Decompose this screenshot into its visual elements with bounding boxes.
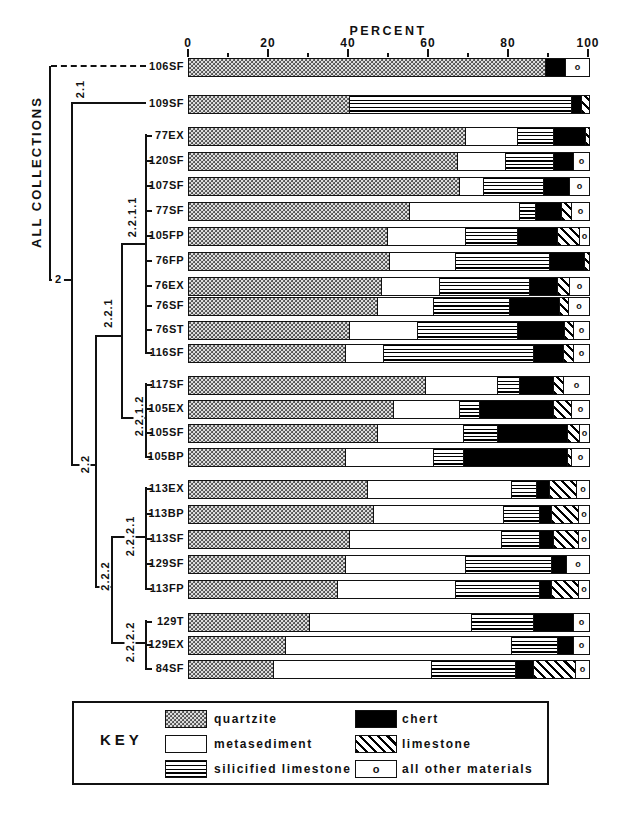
tick-label-20: 20	[260, 36, 275, 50]
bar-segment-silicified-limestone	[431, 661, 515, 678]
bar-113FP: o	[188, 580, 590, 599]
bar-segment-limestone	[551, 506, 578, 523]
row-label-113FP: 113FP	[98, 580, 184, 597]
bar-129SF: o	[188, 555, 590, 574]
bar-105BP: o	[188, 448, 590, 467]
dendro-line-stem-2	[71, 102, 73, 466]
row-label-76FP: 76FP	[98, 252, 184, 269]
key-label-chert: chert	[402, 710, 439, 728]
bar-segment-chert	[535, 203, 561, 220]
bar-segment-chert	[539, 531, 553, 548]
bar-segment-quartzite	[189, 401, 393, 418]
bar-segment-other: o	[573, 637, 589, 654]
bar-segment-quartzite	[189, 228, 387, 245]
tick-label-100: 100	[576, 36, 599, 50]
major-tick-0	[187, 49, 189, 57]
row-label-105FP: 105FP	[98, 227, 184, 244]
bar-segment-quartzite	[189, 581, 337, 598]
row-label-113BP: 113BP	[98, 505, 184, 522]
bar-segment-other: o	[578, 581, 589, 598]
bar-segment-chert	[497, 425, 567, 442]
minor-tick-70	[467, 53, 469, 57]
bar-segment-chert	[571, 96, 581, 113]
row-label-76EX: 76EX	[98, 277, 184, 294]
bar-segment-other: o	[571, 449, 589, 466]
row-label-107SF: 107SF	[98, 177, 184, 194]
bar-segment-chert	[519, 377, 553, 394]
bar-segment-silicified-limestone	[465, 228, 517, 245]
bar-76EX: o	[188, 277, 590, 296]
bar-segment-metasediment	[377, 425, 463, 442]
bar-segment-metasediment	[393, 401, 459, 418]
bar-segment-other: o	[573, 614, 589, 631]
cluster-label-root: ALL COLLECTIONS	[30, 94, 43, 250]
bar-segment-chert	[529, 278, 557, 295]
bar-84SF: o	[188, 660, 590, 679]
bar-segment-metasediment	[345, 449, 433, 466]
bar-105FP: o	[188, 227, 590, 246]
bar-116SF: o	[188, 344, 590, 363]
bar-segment-silicified-limestone	[517, 128, 553, 145]
bar-129EX: o	[188, 636, 590, 655]
bar-segment-metasediment	[285, 637, 511, 654]
row-label-105SF: 105SF	[98, 424, 184, 441]
key-label-metasediment: metasediment	[214, 735, 313, 753]
row-label-106SF: 106SF	[98, 58, 184, 75]
key-label-limestone: limestone	[402, 735, 472, 753]
bar-segment-other: o	[566, 556, 589, 573]
bar-segment-limestone	[553, 377, 563, 394]
bar-106SF: o	[188, 58, 590, 77]
dendro-line-bracket-2-2-1-2	[145, 383, 147, 458]
bar-segment-silicified-limestone	[511, 637, 557, 654]
bar-segment-silicified-limestone	[455, 253, 549, 270]
bar-segment-chert	[517, 322, 564, 339]
bar-segment-limestone	[559, 298, 568, 315]
bar-segment-silicified-limestone	[519, 203, 535, 220]
bar-segment-metasediment	[425, 377, 497, 394]
tick-label-60: 60	[420, 36, 435, 50]
bar-segment-other: o	[578, 506, 589, 523]
bar-113EX: o	[188, 480, 590, 499]
bar-segment-silicified-limestone	[383, 345, 533, 362]
bar-segment-quartzite	[189, 506, 373, 523]
bar-segment-other: o	[565, 59, 589, 76]
bar-segment-metasediment	[337, 581, 455, 598]
bar-segment-limestone	[553, 401, 571, 418]
row-label-77EX: 77EX	[98, 127, 184, 144]
key-title: KEY	[100, 731, 143, 748]
bar-segment-limestone	[567, 425, 579, 442]
bar-segment-chert	[479, 401, 553, 418]
bar-segment-silicified-limestone	[483, 178, 543, 195]
row-label-117SF: 117SF	[98, 376, 184, 393]
bar-segment-other: o	[573, 322, 589, 339]
bar-segment-other: o	[571, 203, 589, 220]
row-label-120SF: 120SF	[98, 152, 184, 169]
bar-segment-chert	[545, 59, 565, 76]
bar-segment-quartzite	[189, 59, 545, 76]
row-label-129SF: 129SF	[98, 555, 184, 572]
bar-segment-limestone	[551, 581, 578, 598]
axis-title: PERCENT	[349, 24, 426, 38]
bar-segment-metasediment	[373, 506, 503, 523]
bar-segment-limestone	[584, 253, 589, 270]
tick-label-40: 40	[340, 36, 355, 50]
bar-segment-quartzite	[189, 556, 345, 573]
bar-segment-chert	[515, 661, 533, 678]
bar-76ST: o	[188, 321, 590, 340]
bar-segment-limestone	[581, 96, 589, 113]
major-tick-100	[587, 49, 589, 57]
minor-tick-30	[307, 53, 309, 57]
bar-segment-metasediment	[349, 531, 501, 548]
key-box: KEY quartzite metasediment silicified li…	[72, 701, 549, 785]
bar-segment-silicified-limestone	[505, 153, 553, 170]
bar-segment-chert	[517, 228, 557, 245]
bar-segment-chert	[551, 556, 566, 573]
bar-segment-chert	[549, 253, 584, 270]
bar-segment-other: o	[569, 178, 589, 195]
key-label-quartzite: quartzite	[214, 710, 278, 728]
bar-segment-silicified-limestone	[439, 278, 529, 295]
bar-segment-silicified-limestone	[503, 506, 539, 523]
row-label-116SF: 116SF	[98, 344, 184, 361]
bar-segment-other: o	[573, 345, 589, 362]
minor-tick-90	[547, 53, 549, 57]
